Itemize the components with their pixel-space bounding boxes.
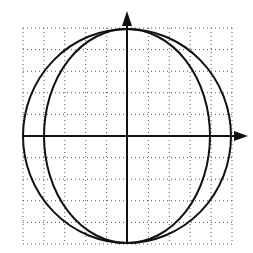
x-axis-arrow-icon — [234, 131, 248, 141]
y-axis-arrow-icon — [122, 11, 132, 26]
diagram-canvas — [0, 0, 253, 253]
